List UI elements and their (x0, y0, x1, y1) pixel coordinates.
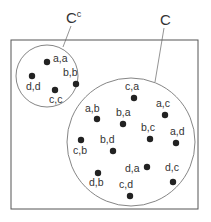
complement-point-label: b,b (63, 66, 78, 78)
event-point-dot (78, 137, 84, 143)
event-point-label: d,a (125, 162, 140, 174)
event-point-label: b,a (116, 106, 131, 118)
event-point-label: a,b (85, 102, 100, 114)
event-point-label: c,d (119, 178, 133, 190)
event-point-dot (131, 95, 137, 101)
venn-diagram: Cc C a,ab,bd,dc,cc,aa,ca,bb,ab,ca,dc,bb,… (0, 0, 211, 222)
event-point-label: a,c (156, 97, 170, 109)
complement-label: Cc (66, 9, 82, 26)
event-point-label: d,b (89, 176, 104, 188)
event-point-dot (110, 148, 116, 154)
event-label: C (160, 11, 171, 28)
complement-point-dot (44, 59, 50, 65)
complement-point-dot (29, 73, 35, 79)
event-point-label: a,d (170, 125, 185, 137)
points-group: a,ab,bd,dc,cc,aa,ca,bb,ab,ca,dc,bb,dd,ad… (26, 52, 185, 199)
event-point-label: c,b (73, 144, 87, 156)
complement-leader-line (63, 26, 71, 47)
event-point-label: c,a (125, 80, 139, 92)
event-point-label: b,d (100, 133, 115, 145)
complement-point-label: a,a (53, 52, 68, 64)
event-point-dot (127, 193, 133, 199)
event-point-dot (162, 112, 168, 118)
complement-point-label: d,d (26, 80, 41, 92)
event-point-dot (170, 179, 176, 185)
event-point-dot (173, 140, 179, 146)
event-point-dot (94, 116, 100, 122)
event-leader-line (155, 28, 164, 82)
event-point-dot (144, 164, 150, 170)
complement-point-label: c,c (49, 93, 62, 105)
event-point-dot (147, 136, 153, 142)
event-point-label: b,c (141, 121, 155, 133)
complement-point-dot (73, 81, 79, 87)
event-point-dot (120, 121, 126, 127)
event-point-label: d,c (165, 161, 179, 173)
